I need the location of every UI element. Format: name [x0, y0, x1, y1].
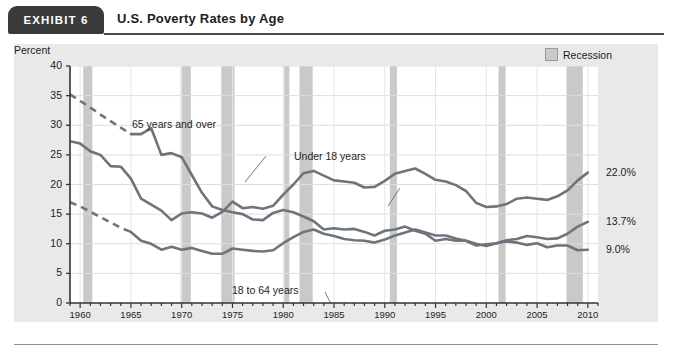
x-tick-label: 1980 [273, 309, 294, 320]
end-label-over65: 9.0% [606, 243, 630, 255]
plot-area [70, 66, 598, 303]
end-label-under18: 22.0% [606, 166, 636, 178]
y-tick-label: 15 [40, 207, 62, 219]
series-line-1 [131, 222, 588, 254]
series-line-dashed-1 [70, 202, 131, 232]
x-tick-label: 1965 [120, 309, 141, 320]
annotation-18to64: 18 to 64 years [232, 284, 299, 296]
legend: Recession [545, 48, 612, 61]
exhibit-header: EXHIBIT 6 U.S. Poverty Rates by Age [0, 0, 674, 40]
page-title: U.S. Poverty Rates by Age [117, 11, 284, 26]
x-tick-label: 1990 [374, 309, 395, 320]
x-tick-label: 1985 [323, 309, 344, 320]
annotation-over65: 65 years and over [132, 118, 216, 130]
x-tick-label: 2005 [526, 309, 547, 320]
x-axis-ticks: 1960196519701975198019851990199520002005… [70, 307, 598, 321]
y-tick-label: 25 [40, 148, 62, 160]
x-tick-label: 2010 [577, 309, 598, 320]
line-chart [70, 66, 598, 303]
y-tick-label: 20 [40, 178, 62, 190]
y-axis-ticks: 0510152025303540 [36, 66, 62, 303]
y-tick-label: 5 [40, 266, 62, 278]
header-divider [104, 33, 664, 35]
y-tick-label: 35 [40, 89, 62, 101]
y-tick-label: 40 [40, 59, 62, 71]
x-tick-label: 1975 [222, 309, 243, 320]
chart-panel: Percent Recession 0510152025303540 19601… [14, 44, 658, 322]
exhibit-tab: EXHIBIT 6 [8, 6, 104, 34]
annotation-leader-0 [245, 156, 266, 182]
annotation-under18: Under 18 years [294, 150, 366, 162]
x-tick-label: 2000 [476, 309, 497, 320]
exhibit-tab-label: EXHIBIT 6 [24, 14, 89, 26]
series-line-dashed-2 [70, 94, 131, 134]
recession-legend-swatch [545, 48, 558, 61]
x-tick-label: 1960 [70, 309, 91, 320]
recession-legend-label: Recession [563, 49, 612, 61]
x-tick-label: 1970 [171, 309, 192, 320]
y-tick-label: 30 [40, 118, 62, 130]
y-tick-label: 10 [40, 237, 62, 249]
end-label-18to64: 13.7% [606, 215, 636, 227]
series-line-2 [131, 128, 588, 250]
x-tick-label: 1995 [425, 309, 446, 320]
footer-divider [14, 344, 658, 345]
y-tick-label: 0 [40, 296, 62, 308]
